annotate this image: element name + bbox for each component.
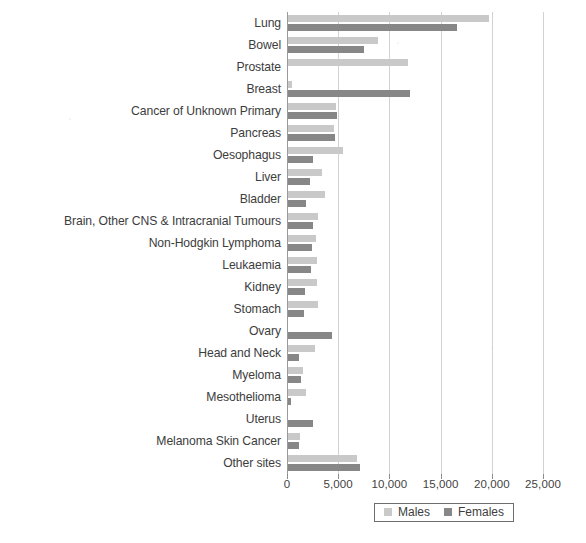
- bar-males[interactable]: [288, 455, 357, 462]
- bar-males[interactable]: [288, 345, 315, 352]
- x-tick-label: 25,000: [525, 478, 561, 490]
- category-label: Oesophagus: [1, 144, 281, 167]
- legend-item-females[interactable]: Females: [444, 506, 504, 518]
- bar-females[interactable]: [288, 420, 313, 427]
- category-label: Mesothelioma: [1, 386, 281, 409]
- category-label: Brain, Other CNS & Intracranial Tumours: [1, 210, 281, 233]
- chart-row: Brain, Other CNS & Intracranial Tumours: [0, 210, 586, 233]
- bar-females[interactable]: [288, 244, 312, 251]
- chart-row: Pancreas: [0, 122, 586, 145]
- chart-row: Prostate: [0, 56, 586, 79]
- bar-males[interactable]: [288, 257, 317, 264]
- chart-row: Lung: [0, 12, 586, 35]
- bar-females[interactable]: [288, 156, 313, 163]
- legend-item-males[interactable]: Males: [384, 506, 430, 518]
- chart-row: Melanoma Skin Cancer: [0, 430, 586, 453]
- bar-females[interactable]: [288, 222, 313, 229]
- legend-label-males: Males: [398, 506, 430, 518]
- category-label: Ovary: [1, 320, 281, 343]
- category-label: Kidney: [1, 276, 281, 299]
- bar-females[interactable]: [288, 310, 304, 317]
- bar-males[interactable]: [288, 103, 336, 110]
- bar-males[interactable]: [288, 279, 317, 286]
- category-label: Liver: [1, 166, 281, 189]
- bar-females[interactable]: [288, 376, 301, 383]
- bar-females[interactable]: [288, 442, 299, 449]
- chart-legend: Males Females: [374, 503, 514, 522]
- chart-row: Ovary: [0, 320, 586, 343]
- x-tick-label: 0: [284, 478, 291, 490]
- chart-row: Cancer of Unknown Primary: [0, 100, 586, 123]
- category-label: Head and Neck: [1, 342, 281, 365]
- chart-row: Kidney: [0, 276, 586, 299]
- bar-females[interactable]: [288, 178, 310, 185]
- bar-females[interactable]: [288, 46, 364, 53]
- chart-row: Other sites: [0, 452, 586, 475]
- bar-females[interactable]: [288, 464, 360, 471]
- chart-row: Bowel: [0, 34, 586, 57]
- category-label: Breast: [1, 78, 281, 101]
- category-label: Myeloma: [1, 364, 281, 387]
- category-label: Lung: [1, 12, 281, 35]
- category-label: Leukaemia: [1, 254, 281, 277]
- bar-males[interactable]: [288, 37, 378, 44]
- bar-males[interactable]: [288, 59, 408, 66]
- bar-females[interactable]: [288, 112, 337, 119]
- category-label: Bowel: [1, 34, 281, 57]
- category-label: Other sites: [1, 452, 281, 475]
- chart-row: Non-Hodgkin Lymphoma: [0, 232, 586, 255]
- category-label: Stomach: [1, 298, 281, 321]
- category-label: Pancreas: [1, 122, 281, 145]
- chart-row: Head and Neck: [0, 342, 586, 365]
- bar-males[interactable]: [288, 81, 292, 88]
- bar-males[interactable]: [288, 389, 306, 396]
- chart-row: Breast: [0, 78, 586, 101]
- chart-row: Oesophagus: [0, 144, 586, 167]
- chart-row: Stomach: [0, 298, 586, 321]
- category-label: Prostate: [1, 56, 281, 79]
- bar-males[interactable]: [288, 15, 489, 22]
- bar-females[interactable]: [288, 332, 332, 339]
- bar-males[interactable]: [288, 147, 343, 154]
- category-label: Melanoma Skin Cancer: [1, 430, 281, 453]
- bar-males[interactable]: [288, 191, 325, 198]
- bar-females[interactable]: [288, 24, 457, 31]
- bar-males[interactable]: [288, 125, 334, 132]
- bar-females[interactable]: [288, 90, 410, 97]
- bar-males[interactable]: [288, 235, 316, 242]
- chart-row: Liver: [0, 166, 586, 189]
- bar-females[interactable]: [288, 288, 305, 295]
- legend-label-females: Females: [458, 506, 504, 518]
- x-tick-label: 10,000: [372, 478, 408, 490]
- bar-males[interactable]: [288, 169, 322, 176]
- x-tick-label: 15,000: [423, 478, 459, 490]
- bar-males[interactable]: [288, 301, 318, 308]
- category-label: Uterus: [1, 408, 281, 431]
- bar-males[interactable]: [288, 433, 300, 440]
- bar-chart: 05,00010,00015,00020,00025,000 LungBowel…: [0, 0, 586, 543]
- bar-females[interactable]: [288, 134, 335, 141]
- chart-row: Uterus: [0, 408, 586, 431]
- bar-females[interactable]: [288, 200, 306, 207]
- chart-row: Bladder: [0, 188, 586, 211]
- bar-males[interactable]: [288, 367, 303, 374]
- category-label: Non-Hodgkin Lymphoma: [1, 232, 281, 255]
- category-label: Cancer of Unknown Primary: [1, 100, 281, 123]
- bar-males[interactable]: [288, 213, 318, 220]
- bar-females[interactable]: [288, 266, 311, 273]
- chart-row: Myeloma: [0, 364, 586, 387]
- bar-females[interactable]: [288, 354, 299, 361]
- chart-row: Mesothelioma: [0, 386, 586, 409]
- legend-swatch-females-icon: [444, 508, 452, 516]
- bar-females[interactable]: [288, 398, 291, 405]
- chart-row: Leukaemia: [0, 254, 586, 277]
- x-tick-label: 20,000: [474, 478, 510, 490]
- legend-swatch-males-icon: [384, 508, 392, 516]
- x-tick-label: 5,000: [324, 478, 353, 490]
- category-label: Bladder: [1, 188, 281, 211]
